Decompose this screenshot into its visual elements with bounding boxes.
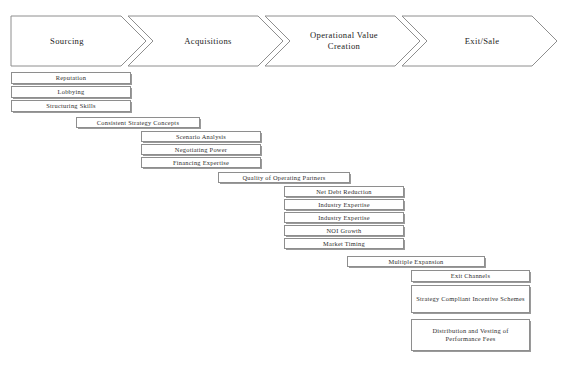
driver-box-reputation: Reputation (11, 72, 131, 84)
driver-box-multiple-expansion: Multiple Expansion (347, 256, 485, 267)
driver-box-scenario-analysis: Scenario Analysis (141, 131, 261, 142)
driver-box-negotiating-power: Negotiating Power (141, 144, 261, 155)
stage-label-operational-value-creation: Operational Value Creation (288, 30, 400, 51)
diagram-canvas: Sourcing Acquisitions Operational Value … (0, 0, 563, 367)
driver-box-market-timing: Market Timing (284, 238, 404, 249)
driver-box-industry-expertise-1: Industry Expertise (284, 199, 404, 210)
driver-box-strategy-compliant-incentive-schemes: Strategy Compliant Incentive Schemes (411, 285, 530, 313)
driver-box-distribution-and-vesting-of-performance-fees: Distribution and Vesting of Performance … (411, 319, 530, 351)
driver-box-quality-of-operating-partners: Quality of Operating Partners (218, 172, 350, 183)
driver-box-noi-growth: NOI Growth (284, 225, 404, 236)
driver-box-industry-expertise-2: Industry Expertise (284, 212, 404, 223)
stage-label-acquisitions: Acquisitions (152, 36, 264, 47)
driver-box-net-debt-reduction: Net Debt Reduction (284, 186, 404, 197)
stage-label-exit-sale: Exit/Sale (426, 36, 538, 47)
stage-label-sourcing: Sourcing (11, 36, 123, 47)
driver-box-exit-channels: Exit Channels (411, 270, 530, 282)
driver-box-lobbying: Lobbying (11, 86, 131, 98)
driver-box-financing-expertise: Financing Expertise (141, 157, 261, 168)
driver-box-structuring-skills: Structuring Skills (11, 100, 131, 112)
driver-box-consistent-strategy-concepts: Consistent Strategy Concepts (76, 117, 200, 128)
